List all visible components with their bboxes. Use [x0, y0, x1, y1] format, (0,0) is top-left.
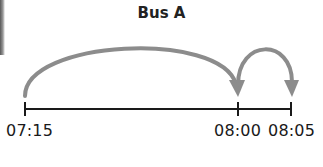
arrowhead-2-icon [284, 80, 299, 97]
tick-label-0715: 07:15 [6, 121, 53, 140]
tick-label-0800: 08:00 [214, 121, 261, 140]
jump-arc-2 [238, 49, 292, 85]
tick-label-0805: 08:05 [268, 121, 315, 140]
jump-arc-1 [25, 48, 236, 96]
timeline-diagram [0, 0, 323, 167]
